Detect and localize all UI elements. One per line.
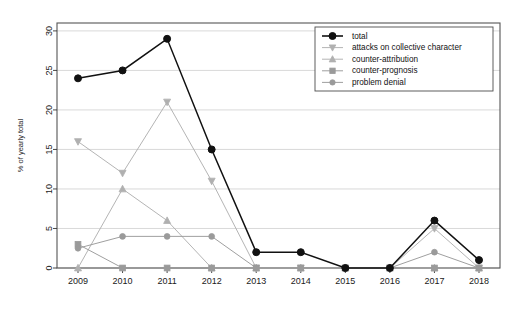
y-tick-label: 15 [44,144,54,154]
x-tick-label: 2011 [157,276,176,286]
marker-circle [330,80,335,85]
x-tick-label: 2010 [113,276,133,286]
marker-square [209,265,215,271]
marker-filled-circle [431,217,438,224]
marker-circle [209,233,215,239]
x-tick-label: 2009 [68,276,88,286]
x-tick-label: 2015 [335,276,355,286]
legend-label: problem denial [352,78,406,87]
marker-circle [120,233,126,239]
marker-circle [476,265,482,271]
marker-filled-circle [476,257,483,264]
y-tick-label: 0 [44,265,54,270]
marker-filled-circle [386,265,393,272]
y-tick-label: 20 [44,105,54,115]
y-tick-label: 5 [44,226,54,231]
marker-triangle-down [119,170,126,177]
x-tick-label: 2016 [380,276,400,286]
x-tick-label: 2012 [202,276,222,286]
marker-square [120,265,126,271]
x-tick-label: 2014 [291,276,311,286]
marker-triangle-up [164,217,171,224]
marker-filled-circle [119,67,126,74]
marker-square [432,265,438,271]
legend-label: counter-attribution [352,55,418,64]
marker-triangle-down [75,139,82,146]
y-tick-label: 25 [44,65,54,75]
series-counter-prognosis [75,241,482,271]
series-counter-attribution [75,185,483,271]
series-line [78,102,479,268]
legend-label: attacks on collective character [352,43,462,52]
x-tick-label: 2017 [424,276,444,286]
marker-filled-circle [164,35,171,42]
series-line [78,244,479,268]
chart-canvas: 051015202530% of yearly total20092010201… [0,0,520,309]
marker-filled-circle [329,33,336,40]
x-tick-label: 2018 [469,276,489,286]
marker-filled-circle [342,265,349,272]
y-tick-label: 30 [44,26,54,36]
legend-label: counter-prognosis [352,66,418,75]
series-attacks-on-collective-character [75,99,483,272]
marker-filled-circle [208,146,215,153]
marker-filled-circle [253,249,260,256]
marker-filled-circle [75,75,82,82]
marker-triangle-down [164,99,171,106]
marker-circle [253,265,259,271]
marker-circle [432,249,438,255]
y-axis-title: % of yearly total [16,118,25,172]
marker-filled-circle [297,249,304,256]
marker-triangle-up [119,185,126,192]
legend: totalattacks on collective charactercoun… [315,27,493,91]
marker-circle [75,245,81,251]
y-tick-label: 10 [44,184,54,194]
marker-circle [164,233,170,239]
marker-square [330,68,335,73]
marker-triangle-down [208,178,215,185]
line-chart: 051015202530% of yearly total20092010201… [0,0,520,309]
marker-square [164,265,170,271]
legend-label: total [352,32,368,41]
marker-circle [298,265,304,271]
x-tick-label: 2013 [246,276,266,286]
